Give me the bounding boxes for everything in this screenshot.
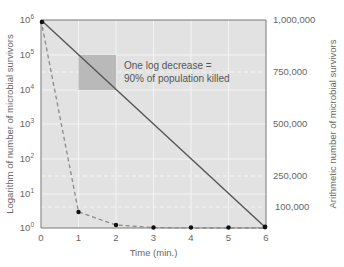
svg-text:4: 4 [188, 232, 193, 243]
y-axis-label-right: Arithmetic number of microbial survivors [327, 39, 338, 208]
x-axis-label: Time (min.) [130, 247, 178, 258]
marker-t0 [40, 20, 45, 25]
y-axis-ticks-right: 1,000,000 750,000 500,000 250,000 100,00… [273, 14, 315, 212]
svg-text:3: 3 [151, 232, 156, 243]
annotation-line1: One log decrease = [124, 60, 212, 71]
marker-t4 [189, 225, 193, 229]
svg-text:1,000,000: 1,000,000 [273, 14, 315, 25]
svg-text:1: 1 [76, 232, 81, 243]
svg-text:500,000: 500,000 [273, 118, 307, 129]
svg-text:2: 2 [113, 232, 118, 243]
svg-text:6: 6 [263, 232, 268, 243]
svg-text:750,000: 750,000 [273, 66, 307, 77]
y-axis-ticks-left: 106 105 104 103 102 101 100 [20, 13, 35, 233]
marker-t1 [76, 210, 80, 214]
marker-t2 [114, 223, 118, 227]
svg-text:100: 100 [20, 221, 35, 233]
svg-text:105: 105 [20, 48, 35, 60]
svg-text:102: 102 [20, 152, 35, 164]
svg-text:103: 103 [20, 117, 35, 129]
svg-text:0: 0 [38, 232, 43, 243]
marker-t6 [263, 225, 268, 230]
svg-text:104: 104 [20, 83, 35, 95]
survivor-curve-chart: One log decrease = 90% of population kil… [0, 0, 344, 267]
svg-text:101: 101 [20, 187, 35, 199]
x-axis-ticks: 0 1 2 3 4 5 6 [38, 232, 268, 243]
svg-text:100,000: 100,000 [275, 201, 309, 212]
svg-text:5: 5 [226, 232, 231, 243]
svg-text:106: 106 [20, 13, 35, 25]
marker-t5 [226, 225, 230, 229]
svg-text:250,000: 250,000 [273, 170, 307, 181]
y-axis-label-left: Logarithm of number of microbial survivo… [4, 34, 15, 214]
annotation-line2: 90% of population killed [124, 73, 230, 84]
marker-t3 [151, 225, 155, 229]
